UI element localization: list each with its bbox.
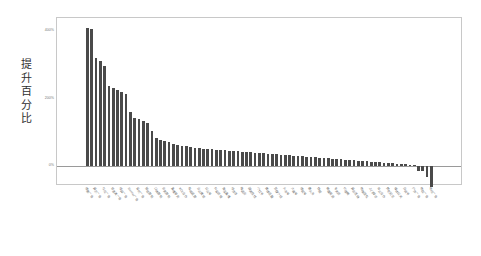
bar [258,153,261,166]
x-tick-label: 快报 [316,186,324,194]
bar [151,131,154,166]
x-axis-ticks: 搜索广告展示广告社交广告信息流广告插屏广告Banner广告音频广告短信营销口碑营… [56,186,462,254]
bar [297,156,300,166]
y-tick-label: 200% [45,96,54,100]
bar [396,164,399,166]
bar [314,157,317,165]
bar [125,94,128,166]
bar [262,153,265,165]
bar [361,161,364,166]
x-tick-label: 趣头条 [307,186,316,196]
bar [86,28,89,166]
bar [163,141,166,166]
bar [292,156,295,166]
bar [112,88,115,166]
bar [99,61,102,166]
x-tick-label: 唯品会 [238,186,247,196]
bar [189,147,192,166]
bar [404,164,407,165]
bar-series [57,18,461,184]
bar [133,118,136,166]
bar [116,90,119,166]
x-tick-label: 大鱼号 [290,186,299,196]
bar [237,151,240,165]
plot-area [56,17,462,185]
bar [232,151,235,166]
bar [340,159,343,165]
bar [138,119,141,165]
bar [215,150,218,166]
bar [155,138,158,166]
bar [95,58,98,166]
bar [417,166,420,171]
bar [206,149,209,166]
bar [327,158,330,165]
bar [181,146,184,166]
bar [103,66,106,165]
bar [387,163,390,166]
bar [348,160,351,166]
y-tick-label: 0% [49,163,54,167]
bar [172,144,175,166]
bar [142,121,145,166]
bar [224,150,227,165]
bar [305,157,308,166]
bar [430,166,433,187]
bar [194,148,197,166]
bar [391,163,394,165]
bar [366,161,369,165]
bar [374,162,377,166]
bar [254,153,257,166]
bar [267,154,270,166]
bar [275,154,278,165]
bar [301,156,304,165]
bar [335,159,338,166]
bar [288,155,291,165]
bar [241,152,244,166]
bar [331,159,334,166]
bar [108,86,111,166]
bar [198,148,201,165]
bar [202,149,205,166]
bar [280,155,283,166]
bar [400,164,403,166]
bar [383,163,386,166]
bar [249,152,252,165]
x-tick-label: 电视广告 [428,186,439,199]
bar [353,160,356,165]
bar [426,166,429,177]
bar [421,166,424,171]
bar [245,152,248,166]
bar [323,158,326,166]
bar [413,165,416,166]
bar [176,145,179,166]
chart-figure: 提 升 百 分 比 0%200%400% 搜索广告展示广告社交广告信息流广告插屏… [0,0,481,256]
bar [185,146,188,165]
bar [284,155,287,166]
bar [318,158,321,166]
y-tick-label: 400% [45,28,54,32]
bar [310,157,313,166]
bar [90,29,93,166]
bar [120,92,123,166]
bar [219,150,222,166]
bar [370,162,373,166]
bar [344,160,347,166]
bar [168,142,171,166]
bar [228,151,231,166]
y-axis-ticks: 0%200%400% [28,17,54,185]
bar [271,154,274,166]
bar [409,165,412,166]
bar [211,149,214,165]
bar [159,140,162,166]
bar [129,112,132,166]
bar [378,162,381,165]
bar [146,123,149,166]
bar [357,161,360,166]
